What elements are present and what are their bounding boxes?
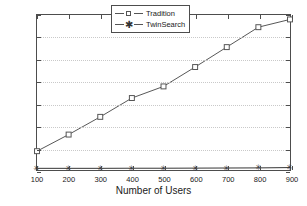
legend-swatch-twinsearch: ✱ [115,20,143,29]
gridline-horizontal [37,37,290,38]
x-tick-label: 700 [222,175,235,184]
data-point-marker [161,84,166,89]
square-marker-icon [126,11,131,16]
x-tick-label: 500 [158,175,171,184]
gridline-horizontal [37,127,290,128]
x-tick-mark [37,15,38,19]
y-tick-mark [286,15,290,16]
x-tick-mark [292,15,293,19]
x-tick-label: 200 [63,175,76,184]
x-tick-mark [292,166,293,170]
x-tick-label: 400 [126,175,139,184]
x-tick-mark [196,15,197,19]
y-tick-mark [37,127,41,128]
data-point-marker [193,65,198,70]
data-point-marker: ✳ [192,164,199,173]
x-tick-label: 800 [254,175,267,184]
x-tick-label: 100 [31,175,44,184]
x-tick-mark [133,166,134,170]
y-tick-mark [286,150,290,151]
x-tick-label: 900 [286,175,299,184]
legend-label-tradition: Tradition [146,9,175,18]
x-tick-mark [101,15,102,19]
legend-item-tradition: Tradition [115,8,185,19]
x-tick-label: 600 [190,175,203,184]
gridline-horizontal [37,105,290,106]
gridline-horizontal [37,82,290,83]
x-tick-mark [260,15,261,19]
x-tick-mark [165,166,166,170]
chart-figure: ✳✳✳✳✳✳✳✳✳ 020406080100120140100200300400… [0,0,307,206]
x-tick-mark [37,166,38,170]
x-tick-mark [228,166,229,170]
y-tick-mark [37,105,41,106]
x-tick-mark [69,15,70,19]
data-point-marker: ✳ [160,164,167,173]
data-point-marker [98,114,103,119]
gridline-horizontal [37,60,290,61]
data-point-marker [129,96,134,101]
x-axis-title: Number of Users [0,185,307,196]
y-tick-mark [286,82,290,83]
legend-label-twinsearch: TwinSearch [146,20,185,29]
gridline-horizontal [37,150,290,151]
y-tick-mark [37,172,41,173]
y-tick-mark [37,37,41,38]
y-tick-mark [286,37,290,38]
y-tick-mark [286,60,290,61]
data-point-marker [66,132,71,137]
data-point-marker [224,45,229,50]
y-tick-mark [286,127,290,128]
y-tick-mark [286,172,290,173]
x-tick-mark [196,166,197,170]
x-tick-mark [101,166,102,170]
y-tick-mark [37,150,41,151]
y-tick-mark [37,82,41,83]
x-tick-label: 300 [94,175,107,184]
x-tick-mark [260,166,261,170]
data-point-marker [256,25,261,30]
chart-legend: Tradition ✱ TwinSearch [111,5,190,33]
legend-item-twinsearch: ✱ TwinSearch [115,19,185,30]
plot-area: ✳✳✳✳✳✳✳✳✳ 020406080100120140100200300400… [36,14,291,171]
y-tick-mark [37,60,41,61]
star-marker-icon: ✱ [124,20,134,30]
legend-swatch-tradition [115,9,143,18]
y-tick-mark [286,105,290,106]
x-tick-mark [228,15,229,19]
x-tick-mark [69,166,70,170]
